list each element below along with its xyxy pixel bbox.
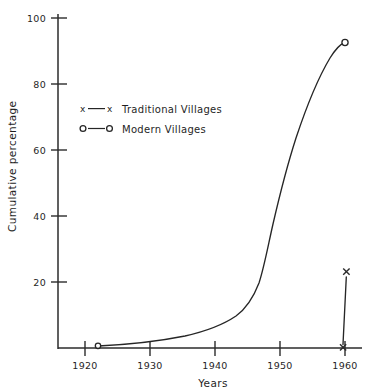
y-tick-label-60: 60 — [33, 145, 46, 156]
legend-label-modern-villages: Modern Villages — [122, 124, 206, 135]
legend-item-traditional-villages: x x Traditional Villages — [80, 104, 222, 115]
legend-marker-x-right: x — [107, 104, 113, 114]
y-axis-title: Cumulative percentage — [6, 101, 18, 232]
legend-marker-o-right — [107, 126, 113, 132]
modern-villages-curve — [98, 43, 344, 346]
chart-figure: 100 80 60 40 20 Cumulative percentage 19… — [0, 0, 365, 392]
legend-label-traditional-villages: Traditional Villages — [121, 104, 222, 115]
y-tick-label-40: 40 — [33, 211, 46, 222]
modern-villages-start-marker-o — [95, 343, 100, 348]
y-tick-label-80: 80 — [33, 79, 46, 90]
modern-villages-end-marker-o — [342, 39, 348, 45]
chart-legend: x x Traditional Villages Modern Villages — [80, 104, 222, 135]
traditional-villages-line — [343, 277, 346, 345]
line-chart-canvas: 100 80 60 40 20 Cumulative percentage 19… — [0, 0, 365, 392]
x-tick-label-1950: 1950 — [267, 360, 292, 371]
x-tick-label-1920: 1920 — [72, 360, 97, 371]
x-tick-label-1930: 1930 — [137, 360, 162, 371]
x-axis-title: Years — [197, 377, 228, 389]
traditional-villages-top-marker-x — [343, 268, 349, 274]
legend-marker-x-left: x — [80, 104, 86, 114]
y-tick-label-100: 100 — [27, 13, 46, 24]
y-tick-label-20: 20 — [33, 277, 46, 288]
legend-marker-o-left — [80, 126, 86, 132]
x-tick-label-1940: 1940 — [202, 360, 227, 371]
legend-item-modern-villages: Modern Villages — [80, 124, 206, 135]
x-tick-label-1960: 1960 — [332, 360, 357, 371]
